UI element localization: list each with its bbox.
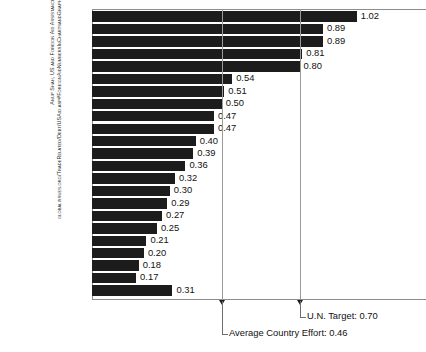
annotation-un-target-elbow [300, 317, 306, 318]
bar [92, 223, 157, 233]
annotation-average-country-effort-leader [222, 301, 223, 334]
bar [92, 111, 214, 121]
bar-row: Japan0.25 [92, 222, 426, 234]
bar [92, 86, 224, 96]
bar [92, 285, 172, 295]
bar-value-label: 0.30 [174, 184, 192, 196]
bar [92, 99, 222, 109]
source-credit: Anup Shah, US and Foreign Aid Assistance… [0, 0, 22, 352]
bar [92, 236, 146, 246]
bar-row: Finland0.40 [92, 135, 426, 147]
bar-row: Ireland0.54 [92, 73, 426, 85]
bar [92, 74, 232, 84]
bar-value-label: 0.54 [236, 72, 254, 84]
annotation-un-target-label: U.N. Target: 0.70 [307, 310, 378, 321]
bar-value-label: 0.18 [143, 259, 161, 271]
bar-value-label: 0.50 [226, 97, 244, 109]
source-credit-line-1: Anup Shah, US and Foreign Aid Assistance… [49, 0, 56, 349]
bar-value-label: 0.17 [140, 271, 158, 283]
bar-value-label: 0.29 [171, 197, 189, 209]
plot-bottom-rule [92, 299, 426, 300]
bar-row: TOTAL DAC0.31 [92, 285, 426, 297]
bar-row: Switzerland0.39 [92, 148, 426, 160]
bar-row: New Zealand0.27 [92, 210, 426, 222]
bar-value-label: 0.32 [179, 172, 197, 184]
bar [92, 186, 170, 196]
bar-row: Greece0.17 [92, 272, 426, 284]
annotation-un-target-leader [300, 301, 301, 317]
bar-row: France0.47 [92, 123, 426, 135]
bar-row: Sweden1.02 [92, 11, 426, 23]
bar [92, 273, 136, 283]
reference-line-average-country-effort [222, 9, 223, 300]
bar-value-label: 0.21 [150, 234, 168, 246]
bar-row: Norway0.89 [92, 23, 426, 35]
reference-line-un-target [300, 9, 301, 300]
bar [92, 124, 214, 134]
bar-row: Canada0.29 [92, 197, 426, 209]
bar [92, 173, 175, 183]
bar-row: Spain0.32 [92, 172, 426, 184]
source-credit-text: Anup Shah, US and Foreign Aid Assistance… [49, 0, 62, 349]
bar-value-label: 0.47 [218, 110, 236, 122]
source-credit-line-2: globalissues.org/TradeRelated/Debt/USAid… [56, 0, 63, 349]
bar-row: Luxembourg0.89 [92, 36, 426, 48]
bar-value-label: 0.80 [304, 60, 322, 72]
bar [92, 24, 323, 34]
bar [92, 211, 162, 221]
bar [92, 136, 196, 146]
bar-chart: Sweden1.02Norway0.89Luxembourg0.89Nether… [92, 9, 426, 299]
bar [92, 198, 167, 208]
annotation-average-country-effort-elbow [222, 334, 228, 335]
bar [92, 49, 302, 59]
bar-value-label: 0.39 [197, 147, 215, 159]
bar-row: United States0.18 [92, 260, 426, 272]
bar [92, 11, 357, 21]
bar-value-label: 0.20 [148, 247, 166, 259]
bar-value-label: 0.51 [228, 85, 246, 97]
bar-value-label: 0.81 [306, 47, 324, 59]
bar-value-label: 0.31 [176, 284, 194, 296]
bar-value-label: 1.02 [361, 10, 379, 22]
bar [92, 148, 193, 158]
bar-value-label: 0.89 [327, 35, 345, 47]
bar [92, 260, 139, 270]
bar [92, 36, 323, 46]
bar-row: Australia0.30 [92, 185, 426, 197]
bar-value-label: 0.27 [166, 209, 184, 221]
bar-row: Italy0.20 [92, 247, 426, 259]
bar-row: Netherlands0.81 [92, 48, 426, 60]
bar-value-label: 0.40 [200, 135, 218, 147]
bar-row: Germany0.36 [92, 160, 426, 172]
bar [92, 161, 185, 171]
bar-value-label: 0.25 [161, 222, 179, 234]
bar [92, 61, 300, 71]
bar [92, 248, 144, 258]
annotation-average-country-effort-label: Average Country Effort: 0.46 [229, 327, 347, 338]
bar-row: Austria0.47 [92, 110, 426, 122]
bar-value-label: 0.36 [189, 159, 207, 171]
bar-value-label: 0.89 [327, 22, 345, 34]
bar-row: Denmark0.80 [92, 60, 426, 72]
bar-row: Portugal0.21 [92, 235, 426, 247]
bar-row: UK0.51 [92, 85, 426, 97]
bar-value-label: 0.47 [218, 122, 236, 134]
bar-row: Belgium0.50 [92, 98, 426, 110]
